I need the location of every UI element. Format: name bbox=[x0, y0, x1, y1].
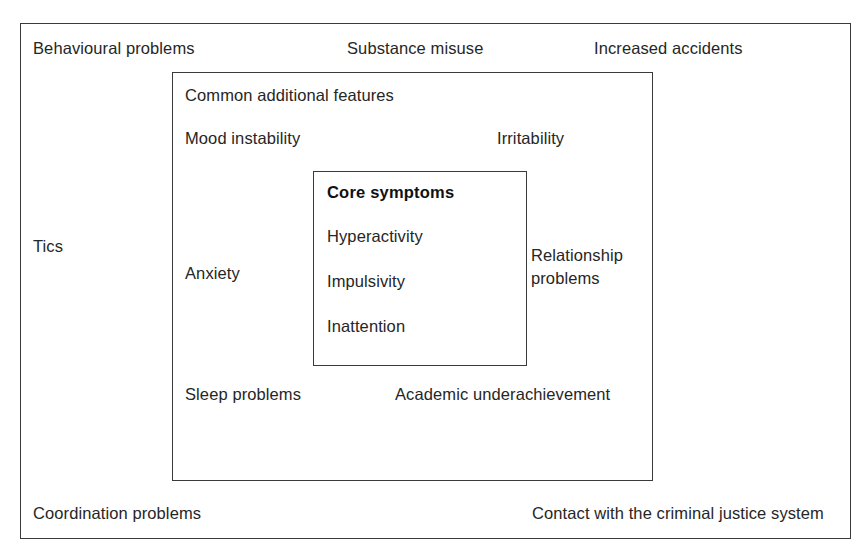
label-irritability: Irritability bbox=[497, 128, 564, 150]
label-substance-misuse: Substance misuse bbox=[347, 38, 483, 60]
label-inattention: Inattention bbox=[327, 316, 405, 338]
label-contact-criminal-justice-system: Contact with the criminal justice system bbox=[532, 503, 824, 525]
label-impulsivity: Impulsivity bbox=[327, 271, 405, 293]
heading-core-symptoms: Core symptoms bbox=[327, 182, 454, 204]
diagram-canvas: Behavioural problems Substance misuse In… bbox=[0, 0, 868, 558]
label-mood-instability: Mood instability bbox=[185, 128, 300, 150]
label-coordination-problems: Coordination problems bbox=[33, 503, 201, 525]
label-anxiety: Anxiety bbox=[185, 263, 240, 285]
label-hyperactivity: Hyperactivity bbox=[327, 226, 423, 248]
label-academic-underachievement: Academic underachievement bbox=[395, 384, 610, 406]
label-behavioural-problems: Behavioural problems bbox=[33, 38, 195, 60]
label-relationship-problems: Relationship problems bbox=[531, 244, 649, 291]
heading-common-additional-features: Common additional features bbox=[185, 85, 394, 107]
label-increased-accidents: Increased accidents bbox=[594, 38, 743, 60]
label-tics: Tics bbox=[33, 236, 63, 258]
label-sleep-problems: Sleep problems bbox=[185, 384, 301, 406]
